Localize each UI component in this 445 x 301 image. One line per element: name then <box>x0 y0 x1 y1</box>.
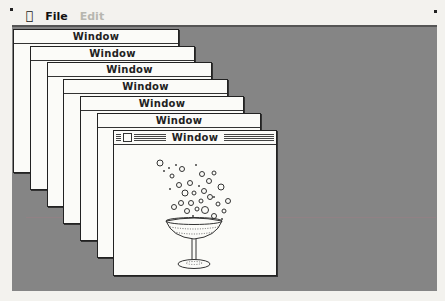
menu-edit[interactable]: Edit <box>80 10 104 23</box>
title-bar[interactable]: Window <box>64 80 227 94</box>
title-bar[interactable]: Window <box>81 97 243 111</box>
window-title: Window <box>73 31 120 42</box>
menu-bar:  File Edit <box>12 6 437 26</box>
champagne-glass-icon <box>154 159 236 271</box>
window-title: Window <box>106 64 153 75</box>
close-box-icon[interactable] <box>123 133 132 142</box>
window-title: Window <box>89 48 136 59</box>
title-bar[interactable]: Window <box>31 47 194 61</box>
title-bar[interactable]: Window <box>48 63 211 77</box>
window-title: Window <box>166 132 225 144</box>
menu-file[interactable]: File <box>45 10 68 23</box>
title-bar[interactable]: Window <box>98 114 260 128</box>
window-front[interactable]: Window <box>113 130 277 276</box>
window-title: Window <box>156 115 203 126</box>
title-bar-active[interactable]: Window <box>114 131 276 145</box>
title-bar[interactable]: Window <box>14 30 178 44</box>
window-title: Window <box>122 81 169 92</box>
window-title: Window <box>139 98 186 109</box>
apple-icon[interactable]:  <box>26 9 33 23</box>
